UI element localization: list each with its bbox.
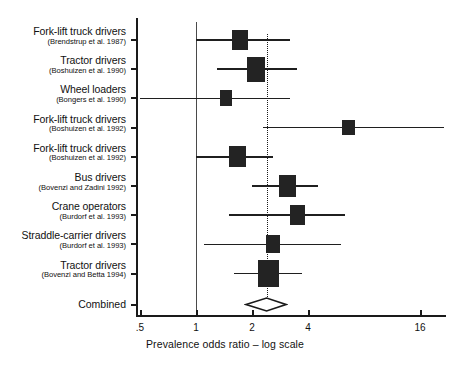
y-axis-tick (131, 127, 138, 129)
point-estimate-marker (342, 120, 354, 136)
point-estimate-marker (290, 205, 305, 225)
point-estimate-marker (279, 175, 295, 197)
y-axis-tick (131, 97, 138, 99)
y-axis-tick (131, 185, 138, 187)
study-label: Fork-lift truck drivers(Boshuizen et al.… (33, 143, 126, 162)
study-name: Tractor drivers (42, 260, 127, 271)
x-axis-tick-label: 4 (288, 322, 328, 333)
study-label: Tractor drivers(Boshuizen et al. 1990) (49, 55, 126, 74)
study-reference: (Bovenzi and Zadini 1992) (39, 184, 126, 192)
x-axis-tick-label: 16 (400, 322, 440, 333)
study-name: Bus drivers (39, 172, 126, 183)
x-axis-title: Prevalence odds ratio – log scale (0, 338, 450, 350)
x-axis-tick-label: 1 (176, 322, 216, 333)
study-name: Straddle-carrier drivers (22, 230, 126, 241)
point-estimate-marker (229, 146, 245, 167)
point-estimate-marker (220, 90, 233, 106)
y-axis-tick (131, 273, 138, 275)
study-name: Fork-lift truck drivers (33, 114, 126, 125)
x-axis-tick (308, 310, 310, 317)
y-axis-tick-combined (131, 304, 138, 306)
study-reference: (Brendstrup et al. 1987) (33, 38, 126, 46)
combined-label: Combined (78, 298, 126, 310)
study-reference: (Bongers et al. 1990) (56, 96, 126, 104)
point-estimate-marker (258, 260, 278, 287)
study-name: Fork-lift truck drivers (33, 143, 126, 154)
study-name: Crane operators (52, 201, 126, 212)
point-estimate-marker (266, 235, 280, 253)
study-name: Tractor drivers (49, 55, 126, 66)
confidence-interval-line (140, 98, 290, 100)
study-label: Bus drivers(Bovenzi and Zadini 1992) (39, 172, 126, 191)
x-axis-tick (420, 310, 422, 317)
study-reference: (Boshuizen et al. 1992) (33, 125, 126, 133)
forest-plot-figure: Fork-lift truck drivers(Brendstrup et al… (0, 0, 450, 366)
point-estimate-marker (247, 57, 266, 82)
y-axis-spine (136, 18, 138, 315)
study-reference: (Bovenzi and Betta 1994) (42, 271, 127, 279)
y-axis-tick (131, 156, 138, 158)
study-name: Wheel loaders (56, 84, 126, 95)
y-axis-tick (131, 39, 138, 41)
x-axis-tick (140, 310, 142, 317)
study-label: Wheel loaders(Bongers et al. 1990) (56, 84, 126, 103)
point-estimate-marker (232, 30, 248, 50)
pooled-estimate-line (267, 34, 268, 297)
study-name: Fork-lift truck drivers (33, 26, 126, 37)
study-reference: (Boshuizen et al. 1990) (49, 67, 126, 75)
x-axis-tick-label: .5 (120, 322, 160, 333)
x-axis-tick (252, 310, 254, 317)
study-label: Fork-lift truck drivers(Boshuizen et al.… (33, 114, 126, 133)
null-reference-line (196, 22, 197, 315)
study-label: Tractor drivers(Bovenzi and Betta 1994) (42, 260, 127, 279)
confidence-interval-line (229, 214, 345, 216)
x-axis-spine (136, 315, 446, 317)
study-reference: (Burdorf et al. 1993) (22, 242, 126, 250)
y-axis-tick (131, 214, 138, 216)
study-label: Fork-lift truck drivers(Brendstrup et al… (33, 26, 126, 45)
study-label: Straddle-carrier drivers(Burdorf et al. … (22, 230, 126, 249)
x-axis-tick (196, 310, 198, 317)
y-axis-tick (131, 243, 138, 245)
y-axis-tick (131, 68, 138, 70)
study-label: Crane operators(Burdorf et al. 1993) (52, 201, 126, 220)
combined-diamond (244, 296, 288, 313)
study-reference: (Burdorf et al. 1993) (52, 213, 126, 221)
study-reference: (Boshuizen et al. 1992) (33, 154, 126, 162)
x-axis-tick-label: 2 (232, 322, 272, 333)
